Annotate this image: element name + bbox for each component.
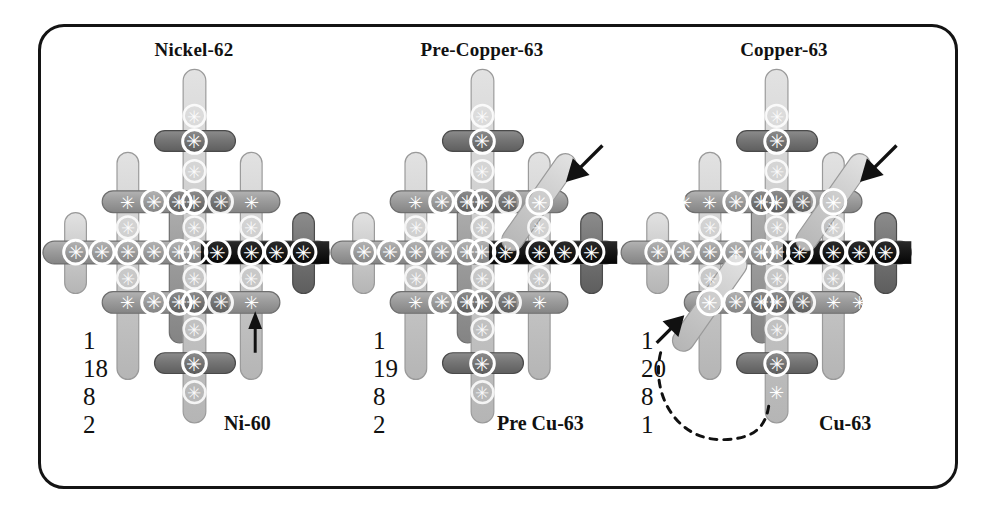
svg-text:✳: ✳ [356,242,372,263]
svg-text:✳: ✳ [677,193,692,213]
svg-text:✳: ✳ [753,292,769,313]
shell-numbers-copper63: 1 20 8 1 [641,327,666,439]
svg-text:✳: ✳ [94,242,110,263]
svg-text:✳: ✳ [244,293,259,313]
node: ✳ [826,293,841,313]
svg-text:✳: ✳ [187,384,201,403]
svg-text:✳: ✳ [475,321,489,340]
panel-nickel62: Nickel-62 [41,27,347,486]
svg-text:✳: ✳ [583,242,600,264]
svg-text:✳: ✳ [268,242,285,264]
svg-text:✳: ✳ [770,163,784,182]
svg-text:✳: ✳ [146,292,162,313]
shell-number: 8 [641,383,666,411]
node: ✳ [702,193,717,213]
svg-text:✳: ✳ [171,292,187,313]
svg-text:✳: ✳ [703,270,717,289]
svg-text:✳: ✳ [295,242,312,264]
svg-text:✳: ✳ [770,219,784,238]
node: ✳ [408,193,423,213]
svg-text:✳: ✳ [753,192,769,213]
svg-text:✳: ✳ [434,192,450,213]
svg-text:✳: ✳ [676,242,692,263]
svg-text:✳: ✳ [770,270,784,289]
svg-text:✳: ✳ [244,219,258,238]
svg-text:✳: ✳ [852,293,867,313]
svg-text:✳: ✳ [770,108,784,127]
svg-text:✳: ✳ [556,242,573,264]
svg-text:✳: ✳ [171,192,187,213]
node: ✳ [244,193,259,213]
svg-text:✳: ✳ [728,192,744,213]
svg-text:✳: ✳ [474,131,490,152]
svg-text:✳: ✳ [408,193,423,213]
svg-text:✳: ✳ [459,242,475,263]
svg-text:✳: ✳ [146,192,162,213]
svg-text:✳: ✳ [532,293,547,313]
svg-text:✳: ✳ [120,193,135,213]
svg-text:✳: ✳ [409,270,423,289]
svg-text:✳: ✳ [877,242,894,264]
svg-text:✳: ✳ [826,219,840,238]
svg-text:✳: ✳ [244,270,258,289]
svg-text:✳: ✳ [826,270,840,289]
svg-text:✳: ✳ [795,192,811,213]
svg-text:✳: ✳ [244,193,259,213]
svg-text:✳: ✳ [120,242,136,263]
shell-number: 2 [373,411,398,439]
svg-text:✳: ✳ [702,193,717,213]
svg-text:✳: ✳ [728,292,744,313]
shell-number: 18 [83,355,108,383]
svg-text:✳: ✳ [795,292,811,313]
svg-text:✳: ✳ [408,242,424,263]
node: ✳ [408,293,423,313]
node: ✳ [677,193,692,213]
svg-text:✳: ✳ [531,192,548,214]
svg-text:✳: ✳ [475,219,489,238]
svg-text:✳: ✳ [791,242,808,264]
svg-text:✳: ✳ [475,384,489,403]
svg-text:✳: ✳ [209,242,226,264]
svg-text:✳: ✳ [650,242,666,263]
svg-text:✳: ✳ [769,354,785,375]
node: ✳ [769,383,784,403]
svg-text:✳: ✳ [475,108,489,127]
svg-text:✳: ✳ [459,192,475,213]
svg-text:✳: ✳ [213,192,229,213]
svg-text:✳: ✳ [186,131,202,152]
svg-text:✳: ✳ [501,192,517,213]
svg-text:✳: ✳ [769,131,785,152]
svg-text:✳: ✳ [501,292,517,313]
svg-text:✳: ✳ [825,192,842,214]
isotope-label-precopper63: Pre Cu-63 [497,412,584,435]
node-group: ✳ ✳ ✳ ✳ ✳ ✳ ✳ ✳ ✳ ✳ ✳ ✳ ✳ ✳ ✳ ✳ ✳ ✳ ✳ ✳ [646,105,898,403]
shell-numbers-nickel62: 1 18 8 2 [83,327,108,439]
svg-text:✳: ✳ [121,219,135,238]
svg-text:✳: ✳ [703,219,717,238]
svg-text:✳: ✳ [146,242,162,263]
svg-text:✳: ✳ [213,292,229,313]
svg-text:✳: ✳ [68,242,84,263]
shell-numbers-precopper63: 1 19 8 2 [373,327,398,439]
diagram-copper63: ✳ ✳ ✳ ✳ ✳ ✳ ✳ ✳ ✳ ✳ ✳ ✳ ✳ ✳ ✳ ✳ ✳ ✳ ✳ ✳ [619,27,949,486]
shell-number: 19 [373,355,398,383]
isotope-label-nickel62: Ni-60 [224,412,271,435]
isotope-label-copper63: Cu-63 [819,412,871,435]
panel-copper63: Copper-63 [619,27,949,486]
svg-text:✳: ✳ [531,242,548,264]
svg-text:✳: ✳ [532,219,546,238]
svg-text:✳: ✳ [474,354,490,375]
shell-number: 8 [373,383,398,411]
svg-text:✳: ✳ [434,242,450,263]
svg-text:✳: ✳ [409,219,423,238]
svg-text:✳: ✳ [532,270,546,289]
svg-text:✳: ✳ [382,242,398,263]
svg-text:✳: ✳ [187,270,201,289]
svg-text:✳: ✳ [171,242,187,263]
node: ✳ [852,293,867,313]
shell-number: 1 [373,327,398,355]
svg-text:✳: ✳ [186,354,202,375]
shell-number: 8 [83,383,108,411]
node: ✳ [120,193,135,213]
svg-text:✳: ✳ [243,242,260,264]
